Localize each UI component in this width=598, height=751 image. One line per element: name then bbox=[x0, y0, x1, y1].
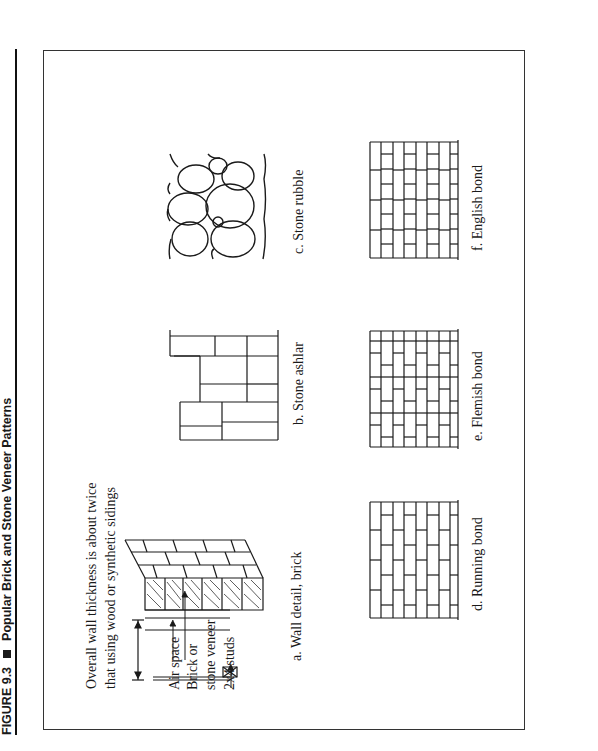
figure-number: FIGURE 9.3 bbox=[0, 667, 14, 735]
caption-wall-detail: a. Wall detail, brick bbox=[289, 552, 305, 661]
label-stone-veneer: stone veneer bbox=[203, 620, 219, 690]
figure-title-text: Popular Brick and Stone Veneer Patterns bbox=[0, 398, 14, 641]
caption-english-bond: f. English bond bbox=[470, 165, 486, 251]
running-bond-drawing bbox=[370, 500, 460, 620]
wall-note-line2: that using wood or synthetic sidings bbox=[103, 487, 119, 689]
caption-stone-ashlar: b. Stone ashlar bbox=[291, 342, 307, 425]
caption-flemish-bond: e. Flemish bond bbox=[470, 351, 486, 441]
stone-ashlar-drawing bbox=[170, 330, 285, 440]
label-brick-or: Brick or bbox=[185, 644, 201, 690]
stone-rubble-drawing bbox=[168, 154, 268, 259]
black-square-icon bbox=[3, 650, 11, 658]
title-rule bbox=[15, 49, 17, 735]
caption-running-bond: d. Running bond bbox=[470, 517, 486, 611]
english-bond-drawing bbox=[370, 140, 460, 260]
figure-title: FIGURE 9.3Popular Brick and Stone Veneer… bbox=[0, 398, 14, 735]
label-air-space: Air space bbox=[167, 637, 183, 690]
caption-stone-rubble: c. Stone rubble bbox=[291, 170, 307, 254]
label-2x4-studs: 2x4 studs bbox=[222, 637, 238, 690]
flemish-bond-drawing bbox=[370, 329, 460, 449]
wall-note-line1: Overall wall thickness is about twice bbox=[84, 483, 100, 689]
figure-page: FIGURE 9.3Popular Brick and Stone Veneer… bbox=[0, 0, 598, 751]
